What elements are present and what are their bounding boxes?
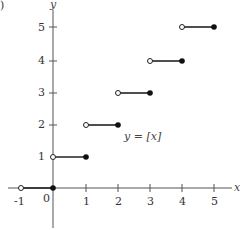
closed-dot-marker <box>179 58 185 64</box>
open-dot-marker <box>180 25 185 30</box>
closed-dot-marker <box>147 90 153 96</box>
step-segments <box>21 27 214 188</box>
open-dot-marker <box>51 155 56 160</box>
closed-dot-marker <box>83 154 89 160</box>
x-tick-label: 1 <box>83 195 90 208</box>
closed-dot-marker <box>115 122 121 128</box>
x-tick-labels: -1 0 1 2 3 4 5 <box>14 192 218 208</box>
function-label: y = [x] <box>123 130 162 143</box>
open-dot-marker <box>19 186 24 191</box>
closed-dot-marker <box>50 185 56 191</box>
step-function-chart: ) x y -1 0 1 2 3 4 5 1 2 3 4 5 <box>0 0 243 230</box>
closed-dot-marker <box>211 24 217 30</box>
y-tick-label: 2 <box>38 118 45 131</box>
x-tick-label: 3 <box>147 195 154 208</box>
x-tick-label: -1 <box>14 195 25 208</box>
x-tick-label: 5 <box>211 195 218 208</box>
y-tick-label: 5 <box>38 21 45 34</box>
x-tick-label: 2 <box>115 195 122 208</box>
y-tick-labels: 1 2 3 4 5 <box>38 21 45 163</box>
open-dot-marker <box>148 59 153 64</box>
x-axis-label: x <box>234 181 241 194</box>
y-tick-label: 1 <box>38 150 45 163</box>
open-dot-marker <box>84 123 89 128</box>
y-tick-label: 4 <box>38 54 45 67</box>
x-tick-label: 0 <box>43 192 50 205</box>
x-tick-label: 4 <box>179 195 186 208</box>
y-axis-label: y <box>49 0 57 11</box>
closed-endpoints <box>50 24 217 191</box>
open-endpoints <box>19 25 185 191</box>
panel-label: ) <box>0 0 4 12</box>
open-dot-marker <box>116 91 121 96</box>
y-tick-label: 3 <box>38 86 45 99</box>
